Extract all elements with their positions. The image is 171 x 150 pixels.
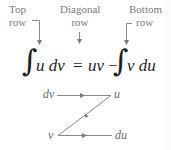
z-diagram [57, 93, 112, 138]
diagram-top-left: dv [43, 88, 54, 100]
top-row-arrow-icon [32, 21, 42, 46]
bottom-row-arrow-icon [124, 24, 132, 46]
bottom-arrow-icon [82, 133, 87, 138]
diagram-top-right: u [114, 88, 120, 100]
equation-lhs: u dv [36, 57, 65, 74]
equation-rhs: v du [127, 57, 156, 74]
top-arrow-icon [80, 93, 85, 98]
equation-uv: uv [88, 57, 104, 74]
diagonal-row-arrow-icon [77, 32, 82, 44]
diagram-bottom-right: du [115, 129, 127, 141]
diagram-bottom-left: v [48, 129, 53, 141]
equation-equals: = [73, 57, 83, 74]
